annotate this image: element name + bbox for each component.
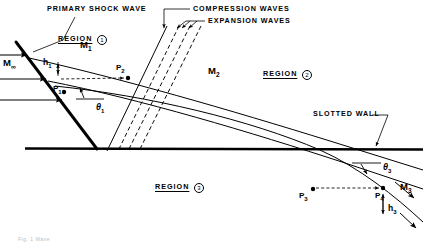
streamline-curved-jet — [55, 86, 423, 222]
compression-waves-leader — [164, 9, 190, 28]
slotted-wall-leader — [372, 115, 388, 146]
h-1-label: h1 — [43, 58, 52, 69]
theta-3-label: θ3 — [383, 163, 391, 174]
p2-label: P2 — [116, 64, 125, 74]
region-2-group: REGION 2 — [263, 63, 312, 80]
region-3-label: REGION — [155, 182, 189, 191]
region-2-label: REGION — [263, 69, 297, 78]
figure-caption-fragment: Fig. 1 Wave — [18, 237, 50, 242]
slotted-wall-line — [25, 149, 423, 150]
mach-1-label: M1 — [80, 40, 92, 52]
expansion-waves-label: EXPANSION WAVES — [208, 17, 291, 24]
technical-diagram-figure: PRIMARY SHOCK WAVE COMPRESSION WAVES EXP… — [0, 0, 423, 244]
primary-shock-wave-line — [16, 42, 97, 149]
compression-wave-line — [107, 26, 167, 151]
mach-infinity-label: M∞ — [3, 58, 16, 70]
region-2-number: 2 — [302, 70, 312, 80]
theta-1-label: θ1 — [96, 103, 104, 114]
slotted-wall-label: SLOTTED WALL — [313, 110, 380, 117]
h-3-label: h3 — [388, 204, 397, 215]
theta3-angle-mark — [352, 163, 381, 174]
mach-3-label: M3 — [400, 182, 412, 194]
expansion-wave-lines — [118, 26, 201, 151]
primary-shock-wave-label: PRIMARY SHOCK WAVE — [47, 5, 147, 12]
compression-waves-label: COMPRESSION WAVES — [193, 5, 290, 12]
region-1-number: 1 — [97, 35, 107, 45]
p4-label: P4 — [375, 192, 384, 202]
region-3-group: REGION 3 — [155, 176, 204, 193]
region-3-number: 3 — [194, 183, 204, 193]
p3-label: P3 — [299, 192, 308, 202]
p1-label: P1 — [53, 85, 62, 95]
mach-2-label: M2 — [208, 66, 220, 78]
